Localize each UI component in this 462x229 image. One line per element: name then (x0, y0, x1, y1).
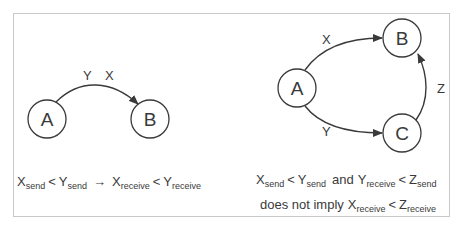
right-edge-a-to-c (305, 106, 382, 133)
left-node-a: A (28, 100, 66, 138)
message-ordering-diagram: Y X A B X Y Z A B C (0, 0, 462, 229)
svg-text:B: B (396, 28, 409, 49)
right-edge-label-x: X (322, 32, 331, 47)
implies-arrow: → (93, 174, 106, 189)
left-edge-label-x: X (105, 68, 114, 83)
right-edge-label-z: Z (437, 81, 445, 96)
right-edge-c-to-b (416, 54, 426, 120)
left-caption: Xsend<Ysend→Xreceive<Yreceive (17, 174, 201, 191)
right-node-b: B (383, 19, 421, 57)
left-edge-label-y: Y (83, 68, 92, 83)
svg-text:A: A (291, 78, 304, 99)
svg-text:B: B (144, 109, 157, 130)
right-node-a: A (278, 69, 316, 107)
right-node-c: C (383, 114, 421, 152)
svg-text:C: C (395, 123, 409, 144)
left-edge-a-to-b (56, 85, 138, 104)
right-edge-label-y: Y (322, 124, 331, 139)
right-edge-a-to-b (305, 38, 382, 70)
right-caption-line1: Xsend<YsendandYreceive<Zsend (256, 172, 436, 189)
right-caption-line2: does not implyXreceive<Zreceive (260, 197, 436, 214)
svg-text:A: A (41, 109, 54, 130)
left-node-b: B (131, 100, 169, 138)
